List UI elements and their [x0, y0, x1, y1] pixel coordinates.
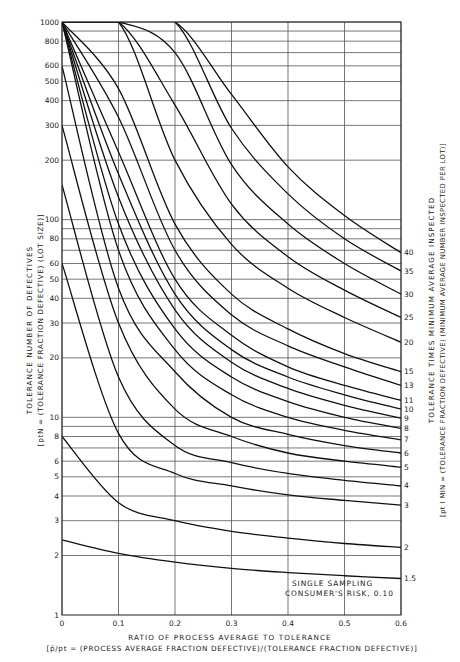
curve-label: 2: [404, 543, 409, 552]
y-tick-label: 800: [45, 37, 60, 46]
curve-label: 30: [404, 290, 414, 299]
y2-axis-sublabel: [pt I MIN = (TOLERANCE FRACTION DEFECTIV…: [439, 143, 447, 517]
x-tick-label: 0.4: [282, 619, 294, 628]
y-tick-label: 60: [49, 259, 59, 268]
x-axis-label: RATIO OF PROCESS AVERAGE TO TOLERANCE: [128, 633, 332, 642]
right-edge-curve-labels: 1.523456789101113152025303540: [404, 248, 416, 583]
curve-label: 25: [404, 313, 414, 322]
y-tick-label: 4: [54, 492, 59, 501]
y-tick-label: 30: [49, 319, 59, 328]
y-tick-label: 1000: [40, 18, 59, 27]
x-tick-label: 0.6: [395, 619, 407, 628]
y-tick-label: 50: [49, 275, 59, 284]
curve-label: 4: [404, 481, 409, 490]
curve-label: 7: [404, 435, 409, 444]
y-tick-label: 500: [45, 77, 60, 86]
x-axis-sublabel: [p̄/pt = (PROCESS AVERAGE FRACTION DEFEC…: [46, 644, 417, 653]
y-tick-label: 200: [45, 156, 60, 165]
y-tick-label: 10: [49, 413, 59, 422]
curve-label: 13: [404, 381, 414, 390]
chart-canvas: 1234568102030405060801002003004005006008…: [0, 0, 460, 662]
x-tick-label: 0.2: [169, 619, 181, 628]
annotation-line-2: CONSUMER'S RISK, 0.10: [285, 589, 394, 598]
curve-label: 6: [404, 449, 409, 458]
y-tick-label: 100: [45, 215, 60, 224]
y2-axis-label: TOLERANCE TIMES MINIMUM AVERAGE INSPECTE…: [427, 197, 436, 425]
curve-label: 5: [404, 463, 409, 472]
y-axis-sublabel: [ptN = (TOLERANCE FRACTION DEFECTIVE) (L…: [36, 214, 45, 447]
annotation-line-1: SINGLE SAMPLING: [292, 579, 373, 588]
y-axis-label: TOLERANCE NUMBER OF DEFECTIVES: [25, 246, 34, 415]
y-tick-label: 600: [45, 61, 60, 70]
x-tick-label: 0.1: [113, 619, 125, 628]
y-tick-label: 80: [49, 234, 59, 243]
y-tick-label: 400: [45, 96, 60, 105]
x-tick-label: 0.3: [226, 619, 238, 628]
y-tick-label: 8: [54, 432, 59, 441]
curve-label: 35: [404, 267, 414, 276]
curve-label: 15: [404, 367, 414, 376]
curve-label: 1.5: [404, 574, 416, 583]
y-tick-label: 20: [49, 353, 59, 362]
curve-label: 9: [404, 414, 409, 423]
y-tick-label: 2: [54, 551, 59, 560]
curve-label: 8: [404, 424, 409, 433]
y-tick-label: 1: [54, 611, 59, 620]
x-tick-label: 0: [60, 619, 65, 628]
y-tick-label: 40: [49, 294, 59, 303]
y-tick-label: 5: [54, 472, 59, 481]
curve-label: 11: [404, 396, 414, 405]
curve-label: 20: [404, 338, 414, 347]
curve-label: 3: [404, 501, 409, 510]
y-tick-label: 300: [45, 121, 60, 130]
curve-label: 10: [404, 405, 414, 414]
grid-lines: [62, 22, 401, 615]
x-axis-ticks: 00.10.20.30.40.50.6: [60, 619, 408, 628]
curve-label: 40: [404, 248, 414, 257]
y-tick-label: 6: [54, 457, 59, 466]
x-tick-label: 0.5: [339, 619, 351, 628]
y-tick-label: 3: [54, 516, 59, 525]
